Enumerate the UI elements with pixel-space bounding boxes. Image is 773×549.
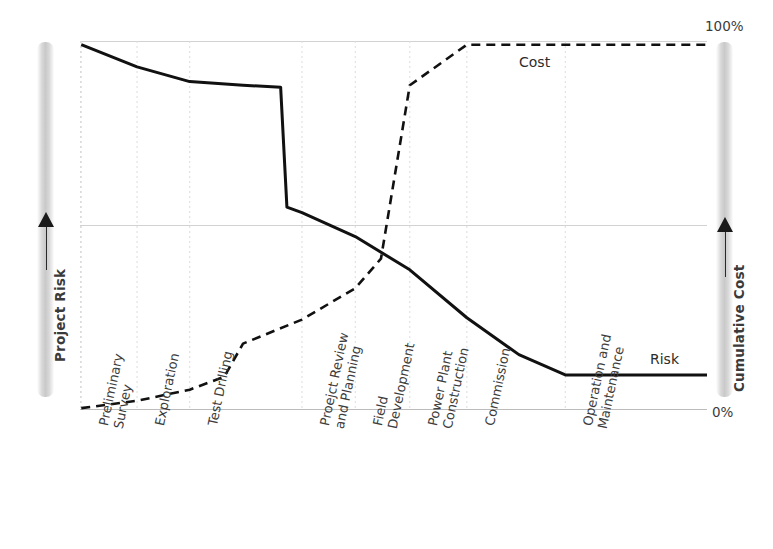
x-axis-label-4: FieldDevelopment: [370, 338, 418, 430]
chart-root: Project Risk Cumulative Cost 100% 0% Cos…: [0, 0, 773, 549]
x-axis-label-line1: Test Drilling: [205, 350, 235, 427]
x-axis-label-0: PreliminarySurvey: [96, 352, 141, 430]
x-axis-label-6: Commission: [482, 346, 513, 427]
x-axis-label-line1: Exploration: [152, 352, 182, 427]
x-axis-label-7: Operation andMaintenance: [580, 333, 629, 430]
x-axis-label-3: Proejct Reviewand Planning: [317, 331, 366, 430]
x-axis-label-line2: Development: [385, 342, 418, 431]
x-axis-label-line1: Commission: [482, 346, 513, 427]
x-axis-label-2: Test Drilling: [205, 350, 235, 427]
x-axis-label-1: Exploration: [152, 352, 182, 427]
x-axis-labels: PreliminarySurveyExplorationTest Drillin…: [0, 0, 773, 549]
x-axis-label-5: Power PlantConstruction: [425, 343, 472, 430]
